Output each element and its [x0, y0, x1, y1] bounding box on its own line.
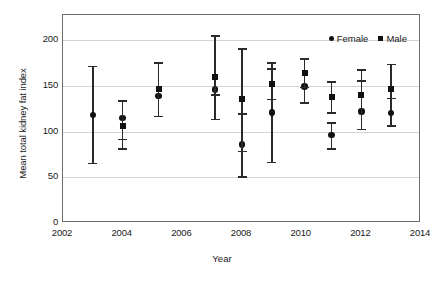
error-bar-cap-lower [357, 129, 366, 131]
y-tick-label-100: 100 [18, 126, 58, 136]
error-bar-cap-upper [267, 62, 276, 64]
error-bar-cap-upper [118, 100, 127, 102]
data-point-male-2004 [120, 123, 126, 129]
data-points-layer [63, 15, 419, 221]
chart-legend: Female Male [329, 33, 407, 44]
error-bar [361, 69, 363, 129]
error-bar-cap-lower [387, 125, 396, 127]
error-bar-cap-lower [211, 119, 220, 121]
error-bar-cap-lower [327, 148, 336, 150]
chart-figure: Mean total kidney fat index 050100150200… [0, 0, 444, 282]
error-bar-cap-upper [88, 66, 97, 68]
error-bar-cap-upper [154, 62, 163, 64]
error-bar-cap-lower [300, 87, 309, 89]
error-bar [214, 35, 216, 94]
error-bar-cap-lower [88, 163, 97, 165]
data-point-male-2010 [302, 70, 308, 76]
square-marker-icon [378, 36, 383, 41]
plot-area: Female Male [62, 14, 420, 222]
data-point-female-2013 [388, 110, 395, 117]
legend-entry-male: Male [378, 33, 407, 44]
data-point-male-2007 [212, 74, 218, 80]
y-tick-label-150: 150 [18, 80, 58, 90]
error-bar-cap-upper [211, 35, 220, 37]
data-point-male-2011 [329, 94, 335, 100]
legend-label-female: Female [337, 33, 369, 44]
error-bar-cap-upper [327, 81, 336, 83]
y-tick-label-200: 200 [18, 34, 58, 44]
legend-label-male: Male [386, 33, 407, 44]
error-bar-cap-lower [267, 99, 276, 101]
x-tick-label-2010: 2010 [278, 228, 324, 238]
circle-marker-icon [329, 36, 334, 41]
x-tick-label-2012: 2012 [337, 228, 383, 238]
error-bar-cap-upper [357, 69, 366, 71]
data-point-male-2013 [388, 86, 394, 92]
error-bar-cap-lower [267, 162, 276, 164]
x-tick-label-2006: 2006 [158, 228, 204, 238]
data-point-male-2008 [239, 96, 245, 102]
data-point-female-2011 [328, 132, 335, 139]
error-bar-cap-upper [387, 64, 396, 66]
x-tick-label-2014: 2014 [397, 228, 443, 238]
x-tick-label-2002: 2002 [39, 228, 85, 238]
error-bar-cap-upper [238, 48, 247, 50]
data-point-female-2003 [90, 112, 97, 119]
legend-entry-female: Female [329, 33, 369, 44]
data-point-male-2009 [269, 81, 275, 87]
data-point-male-2012 [358, 92, 364, 98]
error-bar-cap-lower [238, 176, 247, 178]
y-tick-label-50: 50 [18, 171, 58, 181]
error-bar-cap-lower [387, 98, 396, 100]
error-bar-cap-lower [211, 94, 220, 96]
error-bar-cap-lower [118, 148, 127, 150]
x-tick-label-2004: 2004 [99, 228, 145, 238]
error-bar [390, 64, 392, 98]
x-axis-title: Year [0, 253, 444, 264]
data-point-male-2005 [156, 86, 162, 92]
y-tick-label-0: 0 [18, 217, 58, 227]
error-bar-cap-upper [300, 58, 309, 60]
error-bar-cap-lower [300, 102, 309, 104]
error-bar-cap-upper [327, 122, 336, 124]
x-tick-label-2008: 2008 [218, 228, 264, 238]
error-bar-cap-lower [154, 116, 163, 118]
error-bar-cap-lower [327, 112, 336, 114]
data-point-female-2009 [269, 109, 276, 116]
error-bar-cap-lower [238, 151, 247, 153]
